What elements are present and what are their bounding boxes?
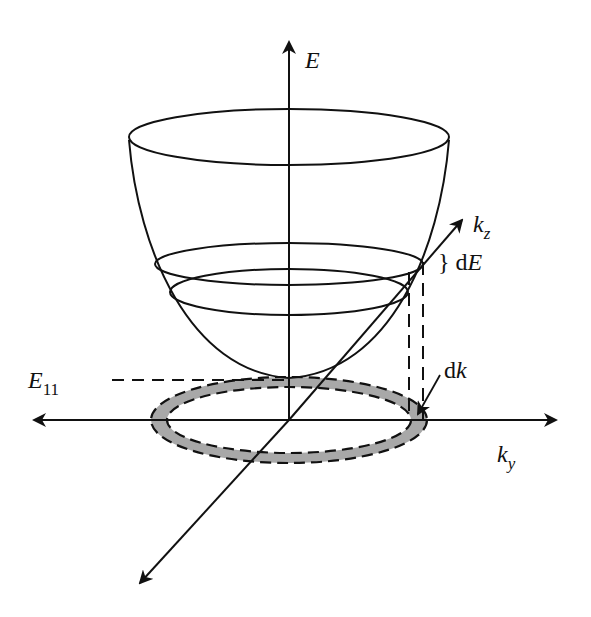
energy-axis-label: E — [305, 48, 320, 72]
ky-axis-label: ky — [497, 442, 515, 466]
dE-label: } dE — [438, 250, 482, 274]
brace-icon: } — [438, 249, 450, 275]
dk-pointer-arrow — [418, 375, 440, 414]
e11-label: E11 — [28, 368, 59, 392]
bowl-left-edge — [129, 140, 289, 378]
kx-axis — [140, 420, 289, 583]
kz-axis-label: kz — [473, 212, 490, 236]
dk-label: dk — [444, 358, 467, 382]
parabolic-band-diagram — [0, 0, 591, 617]
bowl-right-edge — [289, 140, 449, 378]
